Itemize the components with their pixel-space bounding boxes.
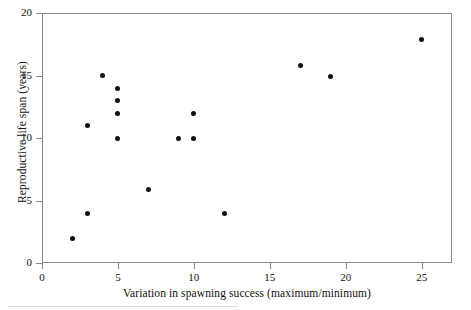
data-point	[222, 211, 227, 216]
x-axis-tick	[270, 263, 271, 269]
data-point	[115, 86, 120, 91]
data-point	[191, 111, 196, 116]
y-axis-tick	[36, 138, 42, 139]
x-axis-tick	[346, 263, 347, 269]
data-point	[115, 111, 120, 116]
data-point	[70, 236, 75, 241]
scatter-plot-figure: Reproductive life span (years) 05101520 …	[0, 0, 471, 310]
x-axis-tick	[422, 263, 423, 269]
data-point	[328, 74, 333, 79]
y-axis-tick	[36, 13, 42, 14]
y-axis-tick-label: 15	[8, 70, 32, 81]
data-point	[146, 187, 151, 192]
data-point	[100, 73, 105, 78]
data-point	[298, 63, 303, 68]
data-point	[115, 136, 120, 141]
y-axis-tick-label: 10	[8, 132, 32, 143]
data-points-layer	[42, 13, 452, 263]
x-axis-tick-label: 25	[407, 271, 437, 283]
data-point	[176, 136, 181, 141]
x-axis-tick-label: 0	[27, 271, 57, 283]
x-axis-tick	[194, 263, 195, 269]
x-axis-tick	[42, 263, 43, 269]
x-axis-tick-label: 10	[179, 271, 209, 283]
data-point	[115, 98, 120, 103]
y-axis-tick	[36, 76, 42, 77]
y-axis-tick	[36, 201, 42, 202]
x-axis-tick	[118, 263, 119, 269]
data-point	[419, 37, 424, 42]
y-axis-tick-label: 5	[8, 195, 32, 206]
data-point	[85, 211, 90, 216]
x-axis-tick-label: 15	[255, 271, 285, 283]
x-axis-title: Variation in spawning success (maximum/m…	[42, 287, 452, 299]
y-axis-tick-label: 20	[8, 7, 32, 18]
x-axis-tick-label: 20	[331, 271, 361, 283]
x-axis-tick-label: 5	[103, 271, 133, 283]
data-point	[85, 123, 90, 128]
data-point	[191, 136, 196, 141]
y-axis-tick-label: 0	[8, 257, 32, 268]
scan-artifact-line	[8, 306, 238, 307]
